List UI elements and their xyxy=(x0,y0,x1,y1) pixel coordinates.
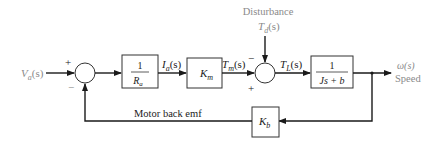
minus-sign: − xyxy=(248,52,254,64)
disturbance-title: Disturbance xyxy=(243,6,294,17)
feedback-label: Motor back emf xyxy=(134,108,202,119)
svg-text:Js + b: Js + b xyxy=(319,75,344,86)
block-km: Km xyxy=(187,58,222,88)
block-kb: Kb xyxy=(252,107,279,137)
svg-text:Speed: Speed xyxy=(395,73,421,84)
input-signal-va: Va(s) xyxy=(21,67,44,82)
output-signal-omega: ω(s) Speed xyxy=(395,60,421,84)
signal-tl-label: TL(s) xyxy=(280,58,303,73)
signal-ia-label: Ia(s) xyxy=(161,58,182,73)
svg-text:1: 1 xyxy=(330,60,335,71)
block-diagram: Va(s) + − 1 Ra Ia(s) Km Tm(s) Disturbanc… xyxy=(0,0,439,147)
svg-text:ω(s): ω(s) xyxy=(397,60,415,72)
disturbance-label: Td(s) xyxy=(258,20,280,35)
svg-text:Va(s): Va(s) xyxy=(21,67,44,82)
svg-text:1: 1 xyxy=(138,60,143,71)
signal-tm-label: Tm(s) xyxy=(222,58,246,73)
plus-sign: + xyxy=(65,56,71,68)
plus-sign: + xyxy=(248,82,254,94)
block-1-over-ra: 1 Ra xyxy=(122,55,158,88)
minus-sign: − xyxy=(68,81,74,93)
summing-junction-1: + − xyxy=(65,56,95,93)
block-plant: 1 Js + b xyxy=(311,56,353,88)
